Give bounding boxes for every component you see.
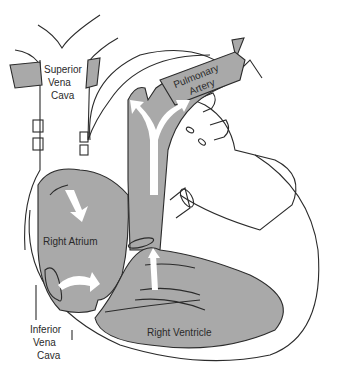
svc-left-band	[10, 62, 42, 88]
vessel-stub	[80, 145, 88, 155]
heart-diagram: Superior Vena Cava Pulmonary Artery Righ…	[0, 0, 340, 377]
vessel-opening	[198, 138, 207, 147]
label-inferior-vena-cava: Inferior Vena Cava	[30, 324, 64, 361]
vessel-stub	[80, 132, 88, 142]
heart-illustration: Superior Vena Cava Pulmonary Artery Righ…	[0, 0, 340, 377]
vessel-opening	[185, 126, 194, 134]
svc-right-top-line	[88, 38, 118, 62]
vessel-stub-right	[210, 120, 229, 140]
label-right-ventricle: Right Ventricle	[147, 327, 212, 338]
svc-left-top-line	[15, 50, 38, 62]
svc-right-band	[86, 58, 100, 88]
vessel-stub	[33, 138, 43, 150]
vessel-stub	[33, 120, 43, 132]
top-v-lines	[38, 15, 100, 48]
label-right-atrium: Right Atrium	[43, 236, 97, 247]
label-superior-vena-cava: Superior Vena Cava	[44, 64, 85, 101]
